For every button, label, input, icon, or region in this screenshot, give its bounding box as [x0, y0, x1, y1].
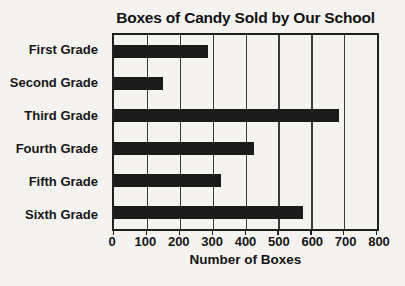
bar-row-first-grade [114, 35, 377, 67]
x-tick-label-700: 700 [335, 234, 357, 249]
bar-row-third-grade [114, 100, 377, 132]
bar-series [114, 35, 377, 229]
bar-second-grade [114, 77, 163, 90]
x-tick-label-200: 200 [168, 234, 190, 249]
category-label-third-grade: Third Grade [0, 99, 105, 132]
chart-title: Boxes of Candy Sold by Our School [88, 9, 403, 27]
bar-row-second-grade [114, 67, 377, 99]
x-tick-label-500: 500 [268, 234, 290, 249]
bar-row-sixth-grade [114, 197, 377, 229]
x-axis-tick-labels: 0100200300400500600700800 [112, 234, 379, 248]
category-label-fourth-grade: Fourth Grade [0, 132, 105, 165]
category-label-sixth-grade: Sixth Grade [0, 198, 105, 231]
x-axis-title: Number of Boxes [112, 252, 379, 267]
category-label-fifth-grade: Fifth Grade [0, 165, 105, 198]
x-tick-label-0: 0 [108, 234, 115, 249]
bar-fifth-grade [114, 174, 221, 187]
bar-third-grade [114, 109, 339, 122]
bar-sixth-grade [114, 206, 303, 219]
x-tick-label-600: 600 [301, 234, 323, 249]
category-label-second-grade: Second Grade [0, 66, 105, 99]
x-tick-label-100: 100 [135, 234, 157, 249]
plot-area [112, 33, 379, 231]
x-tick-label-400: 400 [235, 234, 257, 249]
bar-chart-worksheet: Boxes of Candy Sold by Our School First … [0, 0, 405, 286]
x-tick-label-300: 300 [201, 234, 223, 249]
x-tick-label-800: 800 [368, 234, 390, 249]
bar-first-grade [114, 45, 208, 58]
bar-row-fourth-grade [114, 132, 377, 164]
bar-row-fifth-grade [114, 164, 377, 196]
category-label-first-grade: First Grade [0, 33, 105, 66]
category-axis-labels: First GradeSecond GradeThird GradeFourth… [0, 33, 105, 231]
bar-fourth-grade [114, 142, 254, 155]
